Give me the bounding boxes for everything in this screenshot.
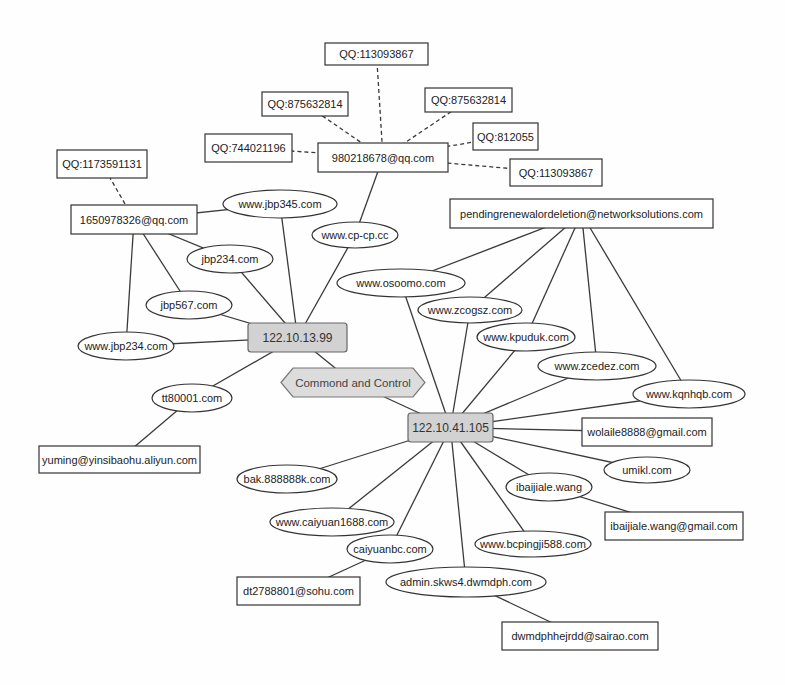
node-jbp234-com-domain[interactable]: jbp234.com xyxy=(187,245,273,273)
node-label: www.zcogsz.com xyxy=(427,304,512,316)
node-jbp567-com-domain[interactable]: jbp567.com xyxy=(146,291,232,319)
edge-email-1650978326-to-dom-www-jbp234 xyxy=(126,220,134,347)
node-label: QQ:113093867 xyxy=(519,167,593,179)
node-label: 1650978326@qq.com xyxy=(80,214,188,226)
node-label: QQ:113093867 xyxy=(339,48,413,60)
node-www-zcedez-com-domain[interactable]: www.zcedez.com xyxy=(538,352,656,380)
node-label: QQ:812055 xyxy=(477,131,534,143)
node-label: www.caiyuan1688.com xyxy=(275,516,389,528)
node-www-kqnhqb-com-domain[interactable]: www.kqnhqb.com xyxy=(633,380,745,408)
node-www-osoomo-com-domain[interactable]: www.osoomo.com xyxy=(337,269,465,297)
node-980218678-qq-com-email[interactable]: 980218678@qq.com xyxy=(318,143,448,172)
node-label: dt2788801@sohu.com xyxy=(243,585,354,597)
node-label: QQ:1173591131 xyxy=(62,158,142,170)
node-label: bak.888888k.com xyxy=(244,473,331,485)
node-caiyuanbc-com-domain[interactable]: caiyuanbc.com xyxy=(347,535,433,563)
node-label: jbp234.com xyxy=(201,253,259,265)
node-qq-875632814-qq[interactable]: QQ:875632814 xyxy=(262,92,348,116)
node-label: ibaijiale.wang@gmail.com xyxy=(610,520,737,532)
node-ibaijiale-wang-gmail-com-email[interactable]: ibaijiale.wang@gmail.com xyxy=(605,512,743,540)
node-tt80001-com-domain[interactable]: tt80001.com xyxy=(152,384,232,412)
node-label: www.bcpingji588.com xyxy=(479,538,586,550)
node-label: ibaijiale.wang xyxy=(516,481,582,493)
node-www-jbp345-com-domain[interactable]: www.jbp345.com xyxy=(223,190,337,218)
node-qq-113093867-qq[interactable]: QQ:113093867 xyxy=(325,43,428,65)
node-label: QQ:744021196 xyxy=(211,142,285,154)
node-www-cp-cp-cc-domain[interactable]: www.cp-cp.cc xyxy=(312,222,398,248)
node-122-10-41-105-ip[interactable]: 122.10.41.105 xyxy=(408,413,493,442)
node-pendingrenewalordeletion-networksolutions-com-email[interactable]: pendingrenewalordeletion@networksolution… xyxy=(450,199,713,228)
node-label: tt80001.com xyxy=(162,392,223,404)
edge-ip-122-10-41-105-to-dom-caiyuanbc xyxy=(390,428,451,550)
node-label: 980218678@qq.com xyxy=(332,152,434,164)
node-label: 122.10.13.99 xyxy=(262,331,332,345)
node-label: umikl.com xyxy=(622,464,672,476)
node-qq-744021196-qq[interactable]: QQ:744021196 xyxy=(205,134,292,162)
node-qq-812055-qq[interactable]: QQ:812055 xyxy=(473,123,538,150)
node-label: wolaile8888@gmail.com xyxy=(586,426,706,438)
node-122-10-13-99-ip[interactable]: 122.10.13.99 xyxy=(248,323,347,352)
node-label: jbp567.com xyxy=(160,299,218,311)
edge-dom-jbp345-to-ip-122-10-13-99 xyxy=(280,204,298,338)
node-www-caiyuan1688-com-domain[interactable]: www.caiyuan1688.com xyxy=(270,508,394,536)
node-label: www.cp-cp.cc xyxy=(320,229,389,241)
node-label: www.kqnhqb.com xyxy=(645,388,732,400)
node-label: www.jbp345.com xyxy=(237,198,321,210)
threat-intel-graph: QQ:113093867QQ:875632814QQ:875632814QQ:8… xyxy=(0,0,785,685)
node-qq-875632814-qq[interactable]: QQ:875632814 xyxy=(425,88,512,112)
node-label: 122.10.41.105 xyxy=(412,421,489,435)
node-label: admin.skws4.dwmdph.com xyxy=(400,576,532,588)
node-qq-1173591131-qq[interactable]: QQ:1173591131 xyxy=(57,150,147,178)
node-label: www.zcedez.com xyxy=(554,360,640,372)
node-www-jbp234-com-domain[interactable]: www.jbp234.com xyxy=(78,332,174,360)
node-yuming-yinsibaohu-aliyun-com-email[interactable]: yuming@yinsibaohu.aliyun.com xyxy=(39,446,200,473)
node-dwmdphhejrdd-sairao-com-email[interactable]: dwmdphhejrdd@sairao.com xyxy=(502,622,658,650)
node-admin-skws4-dwmdph-com-domain[interactable]: admin.skws4.dwmdph.com xyxy=(386,567,546,597)
edge-ip-122-10-41-105-to-dom-admin xyxy=(451,428,467,583)
node-qq-113093867-qq[interactable]: QQ:113093867 xyxy=(510,159,602,186)
node-label: QQ:875632814 xyxy=(267,98,342,110)
node-1650978326-qq-com-email[interactable]: 1650978326@qq.com xyxy=(71,205,197,234)
node-label: yuming@yinsibaohu.aliyun.com xyxy=(42,454,197,466)
node-www-kpuduk-com-domain[interactable]: www.kpuduk.com xyxy=(477,323,575,351)
node-label: www.jbp234.com xyxy=(83,340,167,352)
node-umikl-com-domain[interactable]: umikl.com xyxy=(604,457,690,483)
node-label: QQ:875632814 xyxy=(431,94,506,106)
node-www-bcpingji588-com-domain[interactable]: www.bcpingji588.com xyxy=(475,531,591,557)
edge-qq-113093867-top-to-email-980218678 xyxy=(377,54,384,158)
node-label: Commond and Control xyxy=(295,377,411,389)
nodes-layer: QQ:113093867QQ:875632814QQ:875632814QQ:8… xyxy=(39,43,745,650)
node-www-zcogsz-com-domain[interactable]: www.zcogsz.com xyxy=(418,297,522,323)
node-label: www.kpuduk.com xyxy=(482,331,569,343)
node-bak-888888k-com-domain[interactable]: bak.888888k.com xyxy=(237,465,337,493)
node-label: pendingrenewalordeletion@networksolution… xyxy=(460,208,703,220)
node-commond-and-control-c2[interactable]: Commond and Control xyxy=(281,368,425,397)
node-wolaile8888-gmail-com-email[interactable]: wolaile8888@gmail.com xyxy=(582,418,712,446)
node-label: www.osoomo.com xyxy=(355,277,445,289)
node-dt2788801-sohu-com-email[interactable]: dt2788801@sohu.com xyxy=(237,577,360,605)
node-ibaijiale-wang-domain[interactable]: ibaijiale.wang xyxy=(506,473,592,501)
node-label: dwmdphhejrdd@sairao.com xyxy=(511,630,648,642)
node-label: caiyuanbc.com xyxy=(353,543,426,555)
edge-ip-122-10-41-105-to-dom-zcogsz xyxy=(451,310,471,428)
